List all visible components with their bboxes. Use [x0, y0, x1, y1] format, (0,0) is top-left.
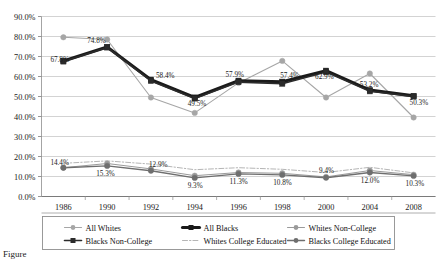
y-axis-tick-label: 20.0%: [14, 153, 36, 162]
data-label: 57.4%: [280, 72, 299, 80]
series-marker-5: [367, 170, 372, 175]
x-axis-tick-label: 1998: [274, 203, 291, 212]
series-marker-0: [61, 35, 66, 40]
series-marker-0: [367, 71, 372, 76]
series-marker-3: [105, 45, 110, 50]
series-marker-3: [367, 89, 372, 94]
series-marker-0: [148, 95, 153, 100]
legend-label[interactable]: Whites College Educated: [204, 237, 287, 246]
data-label: 9.3%: [188, 182, 203, 190]
y-axis-tick-label: 70.0%: [14, 53, 36, 62]
series-marker-5: [411, 173, 416, 178]
data-label: 11.3%: [230, 178, 248, 186]
legend-marker-square: [71, 238, 76, 243]
legend-marker-square: [189, 225, 194, 230]
legend-marker-circle: [294, 238, 299, 243]
series-marker-0: [411, 115, 416, 120]
data-label: 58.4%: [156, 72, 175, 80]
data-label: 49.5%: [188, 100, 207, 108]
data-label: 50.3%: [410, 99, 429, 107]
x-axis: 198619901992199419961998200020042008: [42, 197, 436, 214]
series-marker-5: [104, 163, 109, 168]
data-label: 12.0%: [361, 177, 380, 185]
x-axis-tick-label: 1994: [186, 203, 203, 212]
legend-label[interactable]: All Whites: [86, 224, 122, 233]
series-marker-0: [323, 95, 328, 100]
y-axis-tick-label: 10.0%: [14, 173, 36, 182]
y-axis-tick-label: 80.0%: [14, 33, 36, 42]
data-label: 74.8%: [87, 37, 106, 45]
series-marker-5: [323, 175, 328, 180]
series-marker-3: [148, 78, 153, 83]
series-marker-0: [192, 110, 197, 115]
data-label: 12.9%: [149, 161, 168, 169]
data-label: 15.3%: [96, 170, 115, 178]
series-marker-5: [280, 172, 285, 177]
legend-label[interactable]: Blacks Non-College: [86, 237, 153, 246]
legend-label[interactable]: Whites Non-College: [309, 224, 377, 233]
data-label: 57.9%: [226, 71, 245, 79]
series-marker-3: [236, 80, 241, 85]
y-axis-tick-label: 40.0%: [14, 113, 36, 122]
data-label: 10.3%: [406, 180, 425, 188]
y-axis-tick-label: 30.0%: [14, 133, 36, 142]
y-axis-tick-label: 0.0%: [18, 193, 35, 202]
data-label: 67.8%: [50, 56, 69, 64]
x-axis-tick-label: 2004: [362, 203, 379, 212]
legend-label[interactable]: Blacks College Educated: [309, 237, 391, 246]
data-label: 14.4%: [50, 159, 69, 167]
y-axis: 0.0%10.0%20.0%30.0%40.0%50.0%60.0%70.0%8…: [14, 13, 41, 202]
series-marker-5: [236, 171, 241, 176]
series-marker-5: [148, 168, 153, 173]
y-axis-tick-label: 60.0%: [14, 73, 36, 82]
x-axis-tick-label: 2008: [405, 203, 422, 212]
x-axis-tick-label: 1990: [99, 203, 116, 212]
series-marker-0: [280, 58, 285, 63]
figure-caption: Figure: [3, 249, 27, 259]
y-axis-tick-label: 90.0%: [14, 13, 36, 22]
y-axis-tick-label: 50.0%: [14, 93, 36, 102]
data-label: 9.4%: [319, 167, 334, 175]
series-marker-3: [280, 81, 285, 86]
data-label: 10.8%: [273, 179, 292, 187]
legend-label[interactable]: All Blacks: [204, 224, 239, 233]
series-marker-5: [192, 175, 197, 180]
legend-marker-circle: [71, 225, 76, 230]
data-label: 53.2%: [360, 81, 379, 89]
chart-legend: All WhitesAll BlacksWhites Non-CollegeBl…: [43, 217, 395, 250]
x-axis-tick-label: 1986: [55, 203, 72, 212]
x-axis-tick-label: 1992: [143, 203, 160, 212]
x-axis-tick-label: 1996: [230, 203, 247, 212]
x-axis-tick-label: 2000: [318, 203, 335, 212]
legend-marker-circle: [294, 225, 299, 230]
data-label: 62.9%: [315, 73, 334, 81]
